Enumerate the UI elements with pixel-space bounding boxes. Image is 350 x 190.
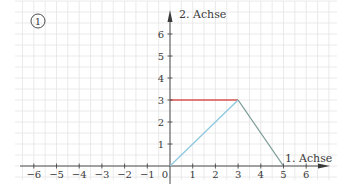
x-tick-label: −1 (140, 169, 155, 180)
x-tick-label: 4 (258, 169, 264, 180)
x-tick-label: 1 (190, 169, 196, 180)
x-tick-label: 5 (280, 169, 286, 180)
x-axis-label: 1. Achse (285, 152, 332, 165)
y-tick-label: 2 (158, 117, 164, 128)
x-tick-label: 2 (212, 169, 218, 180)
y-tick-label: 1 (158, 139, 164, 150)
x-tick-label: −5 (49, 169, 64, 180)
x-tick-label: −2 (117, 169, 132, 180)
x-tick-label: −6 (26, 169, 41, 180)
x-tick-label: 0 (162, 169, 168, 180)
y-tick-label: 3 (158, 95, 164, 106)
y-tick-label: 4 (158, 73, 164, 84)
y-axis-label: 2. Achse (179, 8, 226, 21)
figure-number-badge: 1 (31, 14, 45, 28)
y-tick-label: 5 (158, 51, 164, 62)
x-tick-label: −4 (72, 169, 87, 180)
x-tick-label: 3 (235, 169, 241, 180)
tick-labels: −6−5−4−3−2−10123456123456 (26, 29, 309, 181)
coordinate-plot: −6−5−4−3−2−10123456123456 1 2. Achse 1. … (0, 0, 350, 190)
x-tick-label: −3 (95, 169, 110, 180)
figure-number: 1 (35, 16, 41, 27)
x-tick-label: 6 (303, 169, 309, 180)
y-tick-label: 6 (158, 29, 164, 40)
